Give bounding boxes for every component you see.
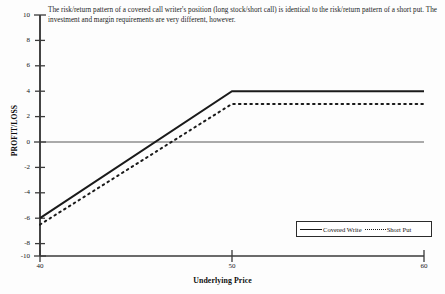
y-tick-label: -10: [8, 252, 30, 260]
legend-label: Short Put: [386, 226, 412, 233]
y-tick-label: 10: [8, 11, 30, 19]
y-tick-label: 8: [8, 36, 30, 44]
x-tick-label: 40: [25, 262, 55, 270]
y-tick-label: 6: [8, 61, 30, 69]
legend-swatch-solid-icon: [300, 229, 322, 230]
x-axis-title: Underlying Price: [0, 276, 445, 285]
series-line-short-put: [40, 104, 424, 225]
chart-legend: Covered Write Short Put: [296, 221, 432, 237]
legend-swatch-dashed-icon: [365, 229, 386, 230]
y-axis-title: PROFIT/LOSS: [10, 96, 19, 166]
chart-page: The risk/return pattern of a covered cal…: [0, 0, 445, 294]
x-tick-label: 50: [217, 262, 247, 270]
y-tick-label: -4: [8, 188, 30, 196]
legend-item-covered-write: Covered Write: [300, 226, 362, 233]
y-tick-label: 4: [8, 87, 30, 95]
legend-item-short-put: Short Put: [362, 226, 412, 233]
y-tick-label: -8: [8, 239, 30, 247]
plot-area: [0, 0, 445, 294]
x-tick-label: 60: [409, 262, 439, 270]
y-tick-label: -6: [8, 214, 30, 222]
legend-label: Covered Write: [322, 226, 362, 233]
series-line-covered-write: [40, 91, 424, 218]
